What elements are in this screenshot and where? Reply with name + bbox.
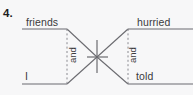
- conjunction-left-label: and: [67, 47, 78, 63]
- word-subject-upper: friends: [26, 16, 58, 28]
- conjunction-right-label: and: [127, 47, 138, 63]
- predicate-lower-diagonal: [97, 57, 128, 84]
- word-subject-lower: I: [25, 70, 28, 82]
- diagram-lines: [0, 0, 193, 95]
- word-predicate-lower: told: [136, 70, 153, 82]
- predicate-upper-diagonal: [97, 29, 128, 57]
- word-predicate-upper: hurried: [137, 16, 170, 28]
- sentence-diagram-exercise: 4. friends I hurried told and and: [0, 0, 193, 95]
